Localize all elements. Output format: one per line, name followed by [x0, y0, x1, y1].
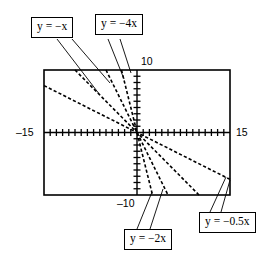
callout-text-neg-0-5x: y = −0.5x [205, 215, 250, 227]
axis-label-xmax: 15 [236, 126, 248, 138]
callout-text-neg-4x: y = −4x [101, 17, 137, 29]
callout-text-neg-2x: y = −2x [130, 232, 166, 244]
axis-label-ymin: –10 [117, 197, 135, 209]
callout-text-neg-x: y = −x [37, 20, 67, 32]
axis-label-xmin: –15 [16, 126, 34, 138]
leader-neg-4x-tail [120, 39, 131, 73]
graph-figure: y = −x y = −4x y = −2x y = −0.5x –15 15 … [0, 0, 280, 262]
callout-label-neg-x: y = −x [31, 17, 73, 38]
leader-neg-2x-tail [137, 192, 152, 229]
callout-label-neg-0-5x: y = −0.5x [199, 212, 256, 233]
callout-label-neg-4x: y = −4x [95, 14, 143, 35]
callout-label-neg-2x: y = −2x [124, 229, 172, 250]
axis-label-ymax: 10 [141, 55, 153, 67]
